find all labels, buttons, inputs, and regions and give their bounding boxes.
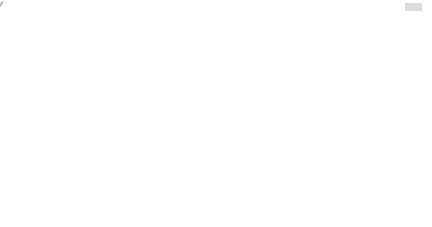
bottom-chart-canvas: [0, 108, 432, 227]
axis-break-icon: ∕∕: [0, 0, 3, 9]
panel-number-in-poverty: ∕∕: [0, 0, 432, 112]
top-chart-canvas: [0, 0, 432, 112]
panel-poverty-rate: [0, 108, 432, 227]
poverty-figure: ∕∕: [0, 0, 432, 227]
